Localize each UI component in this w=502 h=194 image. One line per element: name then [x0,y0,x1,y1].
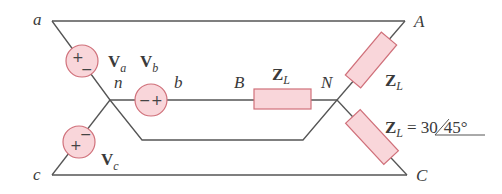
source-vb-plus: + [151,92,163,108]
source-va-minus: − [81,61,93,77]
source-vb: − + [135,84,167,116]
node-label-b: b [174,73,183,92]
source-va: + − [66,45,98,77]
node-label-B: B [234,73,245,92]
source-vc-plus: + [70,137,82,153]
node-label-A: A [413,12,425,31]
source-vc: − + [63,126,95,158]
label-zl-a: ZL [385,71,403,93]
label-va: Va [108,52,126,75]
source-vb-minus: − [139,92,151,108]
source-vc-minus: − [80,126,92,142]
label-zl-b: ZL [272,65,290,87]
circuit-diagram: + − Va − + Vb − + Vc ZL ZL ZL=3045° a c [0,0,502,194]
wire-a-n-lower [52,21,337,140]
node-label-c: c [33,165,41,184]
label-zl-c: ZL=3045° [385,118,467,140]
load-zl-b [254,89,311,109]
node-label-C: C [416,166,428,185]
node-label-n: n [114,73,123,92]
label-vc: Vc [101,150,119,173]
node-label-a: a [33,10,42,29]
node-label-N: N [320,73,334,92]
label-vb: Vb [140,52,158,75]
